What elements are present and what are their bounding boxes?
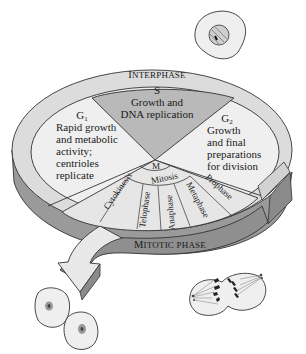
g2-line-1: Growth: [207, 124, 241, 136]
g2-line-3: preparations: [207, 148, 261, 160]
s-label: S: [154, 84, 160, 96]
interphase-label: INTERPHASE: [128, 69, 186, 80]
daughter-cell-1: [35, 288, 70, 327]
g2-line-4: for division: [207, 160, 259, 172]
cell-cycle-svg: INTERPHASE MITOTIC PHASE S Growth and DN…: [0, 0, 306, 354]
mitotic-phase-label: MITOTIC PHASE: [134, 239, 206, 250]
g2-line-2: and final: [207, 136, 246, 148]
s-line-1: Growth and: [131, 96, 184, 108]
dividing-cell-anaphase: [190, 273, 266, 315]
cell-cycle-diagram: INTERPHASE MITOTIC PHASE S Growth and DN…: [0, 0, 306, 354]
s-line-2: DNA replication: [120, 108, 194, 120]
g1-line-3: activity;: [56, 145, 92, 157]
g1-line-5: replicate: [56, 169, 94, 181]
g1-line-1: Rapid growth: [56, 121, 117, 133]
m-label: M: [152, 161, 160, 171]
interphase-cell: [195, 11, 246, 59]
g1-line-2: and metabolic: [56, 133, 118, 145]
daughter-cell-2: [64, 312, 98, 349]
g1-line-4: centrioles: [56, 157, 99, 169]
